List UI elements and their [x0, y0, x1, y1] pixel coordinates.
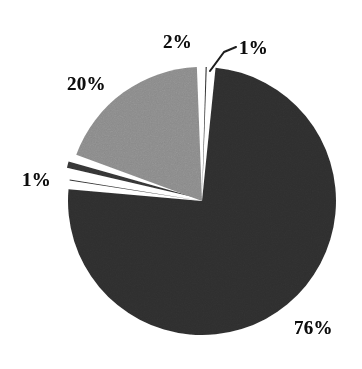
pie-chart-graphic [0, 0, 362, 369]
pie-label-76: 76% [294, 318, 333, 337]
pie-chart-figure: 20% 2% 1% 1% 76% [0, 0, 362, 369]
pie-label-1-left: 1% [22, 170, 51, 189]
pie-label-20: 20% [67, 74, 106, 93]
pie-label-1-top: 1% [239, 38, 268, 57]
pie-label-2: 2% [163, 32, 192, 51]
